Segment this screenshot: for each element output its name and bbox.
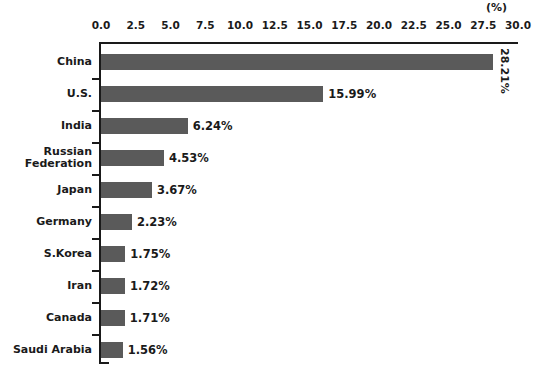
x-tick-label: 7.5 xyxy=(196,19,215,31)
y-axis-tick xyxy=(92,142,101,144)
bar-row: Iran1.72% xyxy=(0,270,538,302)
x-axis-tick-labels: 0.02.55.07.510.012.515.017.520.022.525.0… xyxy=(0,19,538,35)
category-label: U.S. xyxy=(0,78,92,110)
bar-row: Japan3.67% xyxy=(0,174,538,206)
bar xyxy=(101,54,493,70)
category-label: Canada xyxy=(0,302,92,334)
bar xyxy=(101,278,125,294)
bar xyxy=(101,342,123,358)
bar-value-label: 3.67% xyxy=(157,174,197,206)
bar-row: S.Korea1.75% xyxy=(0,238,538,270)
x-tick-label: 22.5 xyxy=(401,19,427,31)
x-tick-label: 12.5 xyxy=(262,19,288,31)
x-tick-label: 20.0 xyxy=(366,19,392,31)
x-tick-label: 17.5 xyxy=(331,19,357,31)
bar-row: China28.21% xyxy=(0,46,538,78)
bar xyxy=(101,118,188,134)
bar-row: Germany2.23% xyxy=(0,206,538,238)
y-axis-tick xyxy=(92,174,101,176)
x-tick-label: 25.0 xyxy=(436,19,462,31)
bar-value-label: 1.72% xyxy=(130,270,170,302)
x-tick-label: 30.0 xyxy=(505,19,531,31)
bar-row: U.S.15.99% xyxy=(0,78,538,110)
bar-row: India6.24% xyxy=(0,110,538,142)
bar-row: Canada1.71% xyxy=(0,302,538,334)
y-axis-tick xyxy=(92,78,101,80)
bar xyxy=(101,246,125,262)
category-label: Japan xyxy=(0,174,92,206)
category-label: China xyxy=(0,46,92,78)
bar xyxy=(101,214,132,230)
category-label: Iran xyxy=(0,270,92,302)
bar-value-label: 1.56% xyxy=(128,334,168,366)
x-tick-label: 2.5 xyxy=(126,19,145,31)
x-tick-label: 0.0 xyxy=(92,19,111,31)
x-tick-label: 15.0 xyxy=(297,19,323,31)
bar xyxy=(101,150,164,166)
bar xyxy=(101,182,152,198)
bar-row: RussianFederation4.53% xyxy=(0,142,538,174)
bar xyxy=(101,310,125,326)
bar-row: Saudi Arabia1.56% xyxy=(0,334,538,366)
category-label: Germany xyxy=(0,206,92,238)
x-tick-label: 10.0 xyxy=(227,19,253,31)
y-axis-tick xyxy=(92,206,101,208)
category-label: Saudi Arabia xyxy=(0,334,92,366)
bar-value-label: 1.71% xyxy=(130,302,170,334)
y-axis-tick xyxy=(92,334,101,336)
bar xyxy=(101,86,323,102)
category-label: India xyxy=(0,110,92,142)
bar-value-label: 6.24% xyxy=(193,110,233,142)
x-tick-label: 5.0 xyxy=(161,19,180,31)
axis-unit-label: (%) xyxy=(486,1,507,14)
y-axis-tick xyxy=(92,302,101,304)
bar-value-label: 15.99% xyxy=(328,78,376,110)
axis-top-line xyxy=(100,42,518,44)
bar-value-label: 4.53% xyxy=(169,142,209,174)
bar-chart: (%) 0.02.55.07.510.012.515.017.520.022.5… xyxy=(0,0,538,384)
y-axis-tick xyxy=(92,238,101,240)
bar-value-label: 1.75% xyxy=(130,238,170,270)
y-axis-tick xyxy=(92,270,101,272)
category-label: RussianFederation xyxy=(0,142,92,174)
y-axis-tick xyxy=(92,110,101,112)
bar-value-label: 2.23% xyxy=(137,206,177,238)
category-label: S.Korea xyxy=(0,238,92,270)
x-tick-label: 27.5 xyxy=(470,19,496,31)
